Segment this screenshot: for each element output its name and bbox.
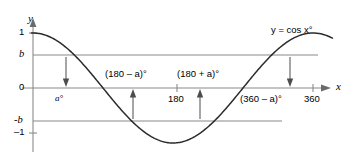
annotation-label-180-plus-a: (180 + a)°: [177, 68, 219, 79]
annotation-180-plus-a-arrow: [197, 89, 203, 119]
x-tick-label-180: 180: [168, 93, 184, 104]
y-tick-label-1: 1: [19, 26, 24, 37]
annotation-a-arrow: [63, 57, 69, 87]
y-axis-label: y: [28, 12, 33, 24]
x-tick-label-360: 360: [304, 93, 320, 104]
y-tick-label-b: b: [19, 48, 24, 59]
y-tick-label-minus-b: -b: [14, 114, 23, 125]
annotation-label-180-minus-a: (180 – a)°: [105, 68, 147, 79]
curve-equation-label: y = cos x°: [271, 24, 313, 35]
annotation-360-minus-a-arrow: [287, 57, 293, 87]
y-tick-label-0: 0: [19, 81, 24, 92]
figure-container: y x 1 b 0 -b –1 180 360 a° (180 – a)° (1…: [0, 0, 353, 168]
annotation-180-minus-a-arrow: [130, 89, 136, 119]
y-tick-label-minus-1: –1: [14, 126, 25, 137]
annotation-label-360-minus-a: (360 – a)°: [240, 93, 282, 104]
annotation-label-a: a°: [55, 93, 63, 103]
x-axis-label: x: [336, 80, 341, 92]
